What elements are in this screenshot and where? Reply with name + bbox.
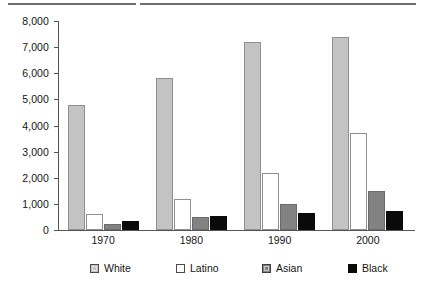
bar-asian-2000[interactable]	[368, 191, 385, 230]
legend-item-black[interactable]: Black	[348, 262, 388, 274]
y-axis-tick-label: 4,000	[0, 121, 49, 132]
bar-black-1990[interactable]	[298, 213, 315, 230]
x-axis-line	[58, 230, 415, 231]
top-divider-segment-left	[8, 3, 136, 5]
top-divider-segment-right	[140, 3, 416, 5]
bar-asian-1990[interactable]	[280, 204, 297, 230]
legend-item-white[interactable]: White	[90, 262, 131, 274]
bar-latino-1980[interactable]	[174, 199, 191, 230]
bar-white-2000[interactable]	[332, 37, 349, 230]
x-axis-label-1980: 1980	[161, 235, 221, 246]
bar-black-1980[interactable]	[210, 216, 227, 230]
bar-group-1990	[236, 21, 324, 230]
x-axis-label-2000: 2000	[338, 235, 398, 246]
y-axis-tick-label: 6,000	[0, 68, 49, 79]
bar-black-2000[interactable]	[386, 211, 403, 230]
y-axis-tick-label: 0	[0, 225, 49, 236]
bar-group-1970	[59, 21, 147, 230]
bar-black-1970[interactable]	[122, 221, 139, 230]
bar-latino-2000[interactable]	[350, 133, 367, 230]
bar-white-1980[interactable]	[156, 78, 173, 230]
legend-label: Asian	[276, 262, 302, 274]
legend-label: Black	[362, 262, 388, 274]
x-axis-label-1970: 1970	[73, 235, 133, 246]
legend-swatch-asian-icon	[262, 264, 271, 273]
y-axis-tick-label: 7,000	[0, 42, 49, 53]
bar-white-1990[interactable]	[244, 42, 261, 230]
bar-asian-1980[interactable]	[192, 217, 209, 230]
y-axis-tick-label: 2,000	[0, 173, 49, 184]
grouped-bar-chart: 01,0002,0003,0004,0005,0006,0007,0008,00…	[0, 14, 424, 242]
y-axis-tick-label: 5,000	[0, 94, 49, 105]
legend-swatch-latino-icon	[176, 264, 185, 273]
y-axis-tick	[54, 230, 59, 231]
chart-legend: WhiteLatinoAsianBlack	[0, 262, 424, 278]
bar-latino-1970[interactable]	[86, 214, 103, 230]
legend-swatch-black-icon	[348, 264, 357, 273]
bar-asian-1970[interactable]	[104, 224, 121, 230]
bar-group-2000	[324, 21, 412, 230]
legend-item-asian[interactable]: Asian	[262, 262, 302, 274]
legend-swatch-white-icon	[90, 264, 99, 273]
legend-label: White	[104, 262, 131, 274]
bar-white-1970[interactable]	[68, 105, 85, 230]
bar-group-1980	[147, 21, 235, 230]
x-axis-label-1990: 1990	[250, 235, 310, 246]
y-axis-tick-label: 1,000	[0, 199, 49, 210]
legend-label: Latino	[190, 262, 219, 274]
y-axis-tick-label: 3,000	[0, 147, 49, 158]
bar-latino-1990[interactable]	[262, 173, 279, 230]
top-divider-rule	[8, 3, 416, 5]
legend-item-latino[interactable]: Latino	[176, 262, 219, 274]
plot-area	[59, 21, 412, 230]
y-axis-tick-label: 8,000	[0, 16, 49, 27]
